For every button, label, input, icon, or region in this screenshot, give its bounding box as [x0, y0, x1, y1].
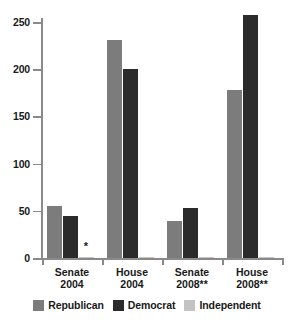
y-axis-tick-label: 150	[0, 110, 30, 122]
x-axis-category-line: Senate	[175, 266, 209, 278]
legend-label: Republican	[48, 299, 104, 311]
y-axis-tick	[33, 22, 42, 24]
x-axis-tick	[42, 258, 44, 265]
x-axis-category-line: 2008**	[236, 278, 268, 290]
x-axis-category-line: 2004	[55, 278, 89, 290]
bar-independent	[199, 257, 214, 259]
bar-democrat	[123, 69, 138, 258]
bar-democrat	[63, 216, 78, 258]
x-axis-category-label: Senate2008**	[175, 266, 209, 290]
y-axis-tick-label: 50	[0, 205, 30, 217]
bar-group	[102, 22, 162, 258]
bar-chart: 050100150200250 * Senate2004House2004Sen…	[0, 0, 294, 323]
x-axis-tick	[102, 258, 104, 265]
bar-group	[222, 22, 282, 258]
x-axis-category-line: 2004	[116, 278, 148, 290]
bar-democrat	[183, 208, 198, 258]
chart-legend: RepublicanDemocratIndependent	[0, 299, 294, 311]
bar-independent	[79, 257, 94, 259]
x-axis-tick	[282, 258, 284, 265]
x-axis-category-label: House2008**	[236, 266, 268, 290]
x-axis-tick	[222, 258, 224, 265]
x-axis-category-label: House2004	[116, 266, 148, 290]
bar-annotation-asterisk: *	[84, 241, 88, 252]
plot-area: *	[42, 22, 282, 258]
y-axis-tick	[33, 211, 42, 213]
bar-republican	[167, 221, 182, 258]
x-axis-category-line: House	[236, 266, 268, 278]
legend-swatch-icon	[33, 300, 44, 311]
bar-group	[162, 22, 222, 258]
y-axis-tick	[33, 164, 42, 166]
legend-label: Democrat	[128, 299, 176, 311]
x-axis-category-label: Senate2004	[55, 266, 89, 290]
y-axis-tick	[33, 69, 42, 71]
bar-independent	[259, 257, 274, 259]
legend-item-independent[interactable]: Independent	[184, 299, 260, 311]
x-axis-category-line: Senate	[55, 266, 89, 278]
bar-republican	[107, 40, 122, 258]
legend-swatch-icon	[113, 300, 124, 311]
legend-label: Independent	[199, 299, 260, 311]
y-axis-tick-label: 100	[0, 158, 30, 170]
x-axis-category-line: 2008**	[175, 278, 209, 290]
bar-group	[42, 22, 102, 258]
y-axis-tick	[33, 116, 42, 118]
x-axis-tick	[162, 258, 164, 265]
bar-republican	[47, 206, 62, 258]
y-axis-tick-label: 200	[0, 63, 30, 75]
bar-independent	[139, 257, 154, 259]
y-axis-tick	[33, 258, 42, 260]
legend-item-democrat[interactable]: Democrat	[113, 299, 176, 311]
y-axis-tick-label: 0	[0, 252, 30, 264]
bar-republican	[227, 90, 242, 258]
y-axis-tick-label: 250	[0, 16, 30, 28]
x-axis-category-line: House	[116, 266, 148, 278]
bar-democrat	[243, 15, 258, 258]
legend-swatch-icon	[184, 300, 195, 311]
legend-item-republican[interactable]: Republican	[33, 299, 104, 311]
